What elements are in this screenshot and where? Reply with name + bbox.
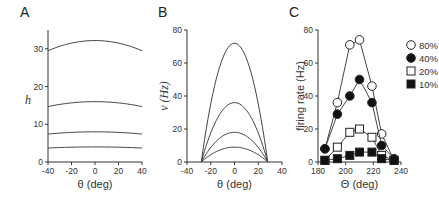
x-tick-label: 0 (93, 166, 98, 176)
y-axis-label: firing rate (Hz) (294, 61, 306, 131)
legend-marker (407, 41, 416, 50)
series-line (48, 132, 142, 134)
x-axis-label: θ (deg) (78, 178, 113, 190)
y-tick-label: 0 (177, 157, 182, 167)
y-tick-label: 0 (308, 157, 313, 167)
data-point (333, 155, 341, 163)
series-line (201, 147, 268, 162)
data-point (333, 143, 341, 151)
legend-label: 10% (419, 79, 439, 90)
legend-label: 20% (419, 66, 439, 77)
legend-label: 80% (419, 40, 439, 51)
x-tick-label: 20 (254, 166, 264, 176)
x-tick-label: 40 (277, 166, 287, 176)
figure: A-40-20020400102030θ (deg)hB-40-20020400… (0, 0, 439, 201)
data-point (333, 110, 342, 119)
data-point (368, 133, 376, 141)
x-tick-label: -20 (205, 166, 218, 176)
data-point (321, 145, 330, 154)
data-point (356, 125, 364, 133)
legend-marker (407, 67, 415, 75)
data-point (346, 41, 355, 50)
panel-c: C180200220240020406080Θ (deg)firing rate… (289, 4, 439, 190)
panel-a: A-40-20020400102030θ (deg)h (20, 4, 147, 190)
legend-marker (407, 54, 416, 63)
data-point (368, 148, 376, 156)
x-tick-label: 20 (114, 166, 124, 176)
y-tick-label: 30 (34, 44, 44, 54)
data-point (356, 148, 364, 156)
y-tick-label: 20 (34, 82, 44, 92)
x-tick-label: -40 (42, 166, 55, 176)
y-tick-label: 10 (34, 119, 44, 129)
x-tick-label: 180 (311, 166, 325, 176)
legend-label: 40% (419, 53, 439, 64)
data-point (346, 151, 354, 159)
y-axis-label: h (25, 93, 31, 107)
data-point (355, 75, 364, 84)
x-tick-label: -20 (65, 166, 78, 176)
data-point (355, 36, 364, 45)
data-point (368, 82, 377, 91)
y-axis-label: v (Hz) (157, 81, 171, 111)
panel-b: B-40-2002040020406080θ (deg)v (Hz) (157, 4, 287, 190)
data-point (346, 128, 354, 136)
y-tick-label: 20 (173, 124, 183, 134)
x-tick-label: 240 (394, 166, 408, 176)
data-point (378, 155, 386, 163)
panel-label: B (158, 4, 167, 20)
data-point (321, 156, 329, 164)
y-tick-label: 80 (173, 25, 183, 35)
x-axis-label: Θ (deg) (341, 178, 378, 190)
series-line (48, 102, 142, 107)
x-tick-label: 200 (339, 166, 353, 176)
panel-label: A (20, 4, 30, 20)
y-tick-label: 60 (173, 58, 183, 68)
data-point (333, 98, 342, 107)
y-tick-label: 0 (38, 157, 43, 167)
data-point (377, 141, 386, 150)
data-point (368, 98, 377, 107)
panel-label: C (289, 4, 299, 20)
y-tick-label: 40 (173, 91, 183, 101)
y-tick-label: 80 (304, 25, 314, 35)
x-tick-label: 220 (366, 166, 380, 176)
data-point (346, 92, 355, 101)
x-tick-label: 0 (232, 166, 237, 176)
legend-marker (407, 80, 415, 88)
x-tick-label: -40 (181, 166, 194, 176)
series-line (48, 41, 142, 51)
data-point (390, 156, 398, 164)
x-tick-label: 40 (137, 166, 147, 176)
series-line (48, 147, 142, 148)
x-axis-label: θ (deg) (217, 178, 252, 190)
